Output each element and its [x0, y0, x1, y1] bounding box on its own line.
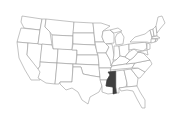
state-colorado — [57, 49, 77, 64]
us-map — [0, 0, 174, 127]
state-wisconsin — [102, 30, 114, 44]
state-new-york — [130, 30, 152, 43]
state-washington — [21, 16, 42, 30]
state-south-dakota — [73, 33, 95, 45]
state-maine — [156, 16, 165, 33]
state-oregon — [17, 28, 40, 44]
state-pennsylvania — [129, 42, 147, 51]
state-arizona — [38, 62, 57, 84]
state-florida — [119, 86, 145, 108]
state-new-mexico — [55, 63, 73, 84]
state-north-dakota — [73, 22, 94, 33]
state-wyoming — [52, 35, 73, 50]
state-new-jersey — [147, 43, 150, 50]
states — [17, 16, 165, 108]
state-kansas — [76, 55, 99, 65]
